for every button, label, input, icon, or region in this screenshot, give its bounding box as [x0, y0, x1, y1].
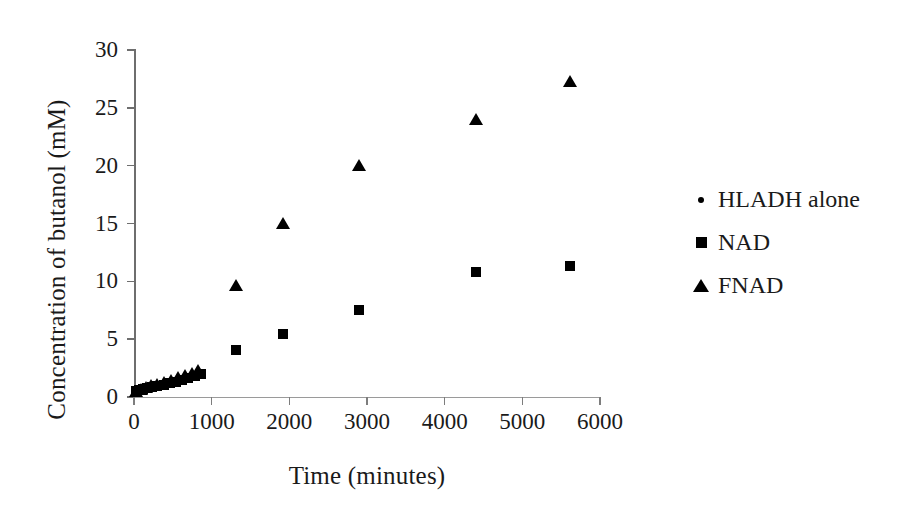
data-point-dot — [181, 378, 186, 383]
butanol-concentration-chart: Concentration of butanol (mM) Time (minu… — [0, 0, 911, 519]
x-tick-label: 5000 — [477, 410, 567, 433]
data-point-square — [278, 329, 288, 339]
data-point-dot — [184, 377, 189, 382]
data-point-dot — [199, 370, 204, 375]
data-point-dot — [132, 389, 137, 394]
data-point-square — [171, 377, 181, 387]
y-tick-label: 15 — [58, 212, 118, 235]
legend-item-label: NAD — [718, 229, 770, 256]
data-point-dot — [153, 385, 158, 390]
x-tick-label: 0 — [89, 410, 179, 433]
data-point-square — [159, 380, 169, 390]
data-point-triangle — [139, 381, 153, 393]
data-point-dot — [159, 384, 164, 389]
data-point-triangle — [229, 279, 243, 291]
data-point-square — [134, 385, 144, 395]
data-point-triangle — [129, 385, 143, 397]
data-point-triangle — [178, 369, 192, 381]
data-point-dot — [144, 387, 149, 392]
chart-legend: HLADH aloneNADFNAD — [690, 178, 905, 307]
legend-item-nad[interactable]: NAD — [690, 221, 905, 264]
data-point-dot — [156, 385, 161, 390]
data-point-dot — [135, 389, 140, 394]
legend-item-label: FNAD — [718, 272, 783, 299]
data-point-square — [471, 267, 481, 277]
legend-item-hladh-alone[interactable]: HLADH alone — [690, 178, 905, 221]
data-point-square — [138, 384, 148, 394]
data-point-square — [131, 386, 141, 396]
data-point-square — [152, 381, 162, 391]
data-point-dot — [194, 373, 199, 378]
data-point-dot — [187, 376, 192, 381]
data-point-triangle — [150, 378, 164, 390]
x-tick-label: 3000 — [322, 410, 412, 433]
y-tick-label: 0 — [58, 385, 118, 408]
y-tick-label: 5 — [58, 327, 118, 350]
data-point-triangle — [191, 364, 205, 376]
data-point-triangle — [185, 367, 199, 379]
data-point-triangle — [352, 159, 366, 171]
data-point-dot — [166, 383, 171, 388]
x-tick-label: 2000 — [244, 410, 334, 433]
x-tick-label: 4000 — [400, 410, 490, 433]
data-point-square — [354, 305, 364, 315]
x-tick — [599, 397, 600, 405]
data-point-triangle — [563, 75, 577, 87]
data-point-triangle — [134, 383, 148, 395]
triangle-icon — [690, 279, 712, 292]
y-tick-label: 30 — [58, 38, 118, 61]
y-tick-label: 25 — [58, 96, 118, 119]
x-tick-label: 1000 — [167, 410, 257, 433]
x-tick — [366, 397, 367, 405]
data-point-square — [147, 382, 157, 392]
x-tick — [444, 397, 445, 405]
data-point-triangle — [144, 379, 158, 391]
data-point-dot — [191, 374, 196, 379]
data-point-square — [196, 369, 206, 379]
data-point-square — [190, 371, 200, 381]
data-point-triangle — [276, 217, 290, 229]
dot-icon — [690, 197, 712, 203]
data-point-dot — [175, 380, 180, 385]
data-point-dot — [172, 381, 177, 386]
data-point-dot — [139, 388, 144, 393]
square-icon — [690, 237, 712, 248]
legend-item-label: HLADH alone — [718, 186, 860, 213]
y-tick-label: 20 — [58, 154, 118, 177]
x-tick — [133, 397, 134, 405]
data-point-triangle — [469, 113, 483, 125]
data-point-dot — [163, 384, 168, 389]
data-point-dot — [147, 386, 152, 391]
y-axis-title: Concentration of butanol (mM) — [22, 0, 92, 519]
data-point-square — [177, 375, 187, 385]
data-point-dot — [142, 387, 147, 392]
data-point-square — [165, 378, 175, 388]
data-point-square — [183, 373, 193, 383]
legend-item-fnad[interactable]: FNAD — [690, 264, 905, 307]
x-tick-label: 6000 — [555, 410, 645, 433]
data-point-triangle — [157, 376, 171, 388]
data-point-dot — [150, 386, 155, 391]
data-point-triangle — [164, 374, 178, 386]
x-tick — [211, 397, 212, 405]
data-point-dot — [137, 388, 142, 393]
x-axis-title: Time (minutes) — [134, 462, 600, 490]
data-point-square — [231, 345, 241, 355]
plot-area — [134, 50, 600, 397]
data-point-dot — [178, 379, 183, 384]
x-tick — [522, 397, 523, 405]
data-point-dot — [169, 382, 174, 387]
x-tick — [289, 397, 290, 405]
data-point-dot — [197, 371, 202, 376]
y-tick-label: 10 — [58, 269, 118, 292]
data-point-square — [142, 383, 152, 393]
data-point-square — [565, 261, 575, 271]
data-point-triangle — [171, 371, 185, 383]
